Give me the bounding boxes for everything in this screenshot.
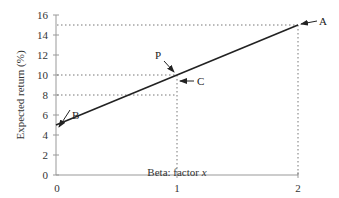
y-tick-label: 8 <box>43 89 49 101</box>
annotation-c: C <box>180 75 204 87</box>
reference-lines <box>57 25 298 175</box>
y-tick-label: 12 <box>37 49 48 61</box>
label-p: P <box>155 49 161 61</box>
x-tick-label: 0 <box>54 182 60 194</box>
chart: 16 14 12 10 8 6 4 2 0 0 1 2 A <box>0 0 339 198</box>
y-tick-labels: 16 14 12 10 8 6 4 2 0 <box>37 9 49 181</box>
y-tick-label: 4 <box>43 129 49 141</box>
x-axis-title-text: Beta: factor <box>147 166 201 178</box>
arrow-icon <box>164 61 174 72</box>
x-tick-label: 1 <box>174 182 180 194</box>
y-tick-label: 14 <box>37 29 49 41</box>
x-tick-label: 2 <box>295 182 301 194</box>
y-tick-label: 6 <box>43 109 49 121</box>
annotation-b: B <box>59 109 79 127</box>
y-tick-label: 0 <box>43 169 49 181</box>
label-a: A <box>319 15 327 27</box>
annotation-p: P <box>155 49 174 72</box>
y-axis-title: Expected return (%) <box>14 50 27 140</box>
label-c: C <box>197 75 204 87</box>
x-tick-labels: 0 1 2 <box>54 182 301 194</box>
x-axis-title-var: x <box>201 166 207 178</box>
arrow-icon <box>301 21 317 24</box>
y-tick-label: 16 <box>37 9 49 21</box>
arrow-icon <box>59 110 70 127</box>
x-axis-title: Beta: factor x <box>147 166 206 178</box>
y-tick-label: 2 <box>43 149 49 161</box>
security-market-line <box>56 25 298 125</box>
y-tick-label: 10 <box>37 69 49 81</box>
annotation-a: A <box>301 15 327 27</box>
label-b: B <box>72 109 79 121</box>
